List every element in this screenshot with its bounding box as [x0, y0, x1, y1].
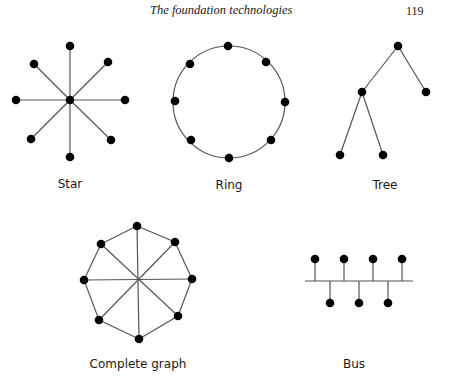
star-node [66, 42, 75, 51]
complete-graph-node [188, 275, 197, 284]
tree-node [336, 151, 345, 160]
network-topologies-figure [0, 0, 451, 386]
complete-graph-node [133, 222, 142, 231]
complete-graph-edge [99, 320, 139, 339]
complete-graph-edge [84, 244, 101, 280]
ring-node [281, 98, 290, 107]
bus-node [384, 299, 393, 308]
complete-graph-node [97, 240, 106, 249]
star-node [27, 135, 36, 144]
star-node [107, 136, 116, 145]
ring-node [224, 42, 233, 51]
complete-graph-edge [139, 316, 178, 339]
ring-label: Ring [216, 178, 243, 192]
star-edge [70, 100, 111, 140]
bus-label: Bus [343, 357, 365, 371]
complete-graph-node [135, 335, 144, 344]
complete-graph-edge [101, 226, 137, 244]
bus-node [398, 255, 407, 264]
bus-node [340, 255, 349, 264]
star-node [121, 96, 130, 105]
star-edge [34, 64, 70, 100]
bus-node [311, 255, 320, 264]
complete-graph-edge [178, 279, 192, 316]
bus-node [355, 299, 364, 308]
ring-node [267, 136, 276, 145]
complete-graph-node [80, 276, 89, 285]
tree-edge [340, 92, 362, 155]
bus-node [326, 299, 335, 308]
ring-node [262, 58, 271, 67]
star-label: Star [58, 177, 83, 191]
complete-graph-edge [137, 226, 139, 339]
tree-node [379, 151, 388, 160]
tree-node [358, 88, 367, 97]
star-node [104, 58, 113, 67]
tree-edge [398, 46, 426, 92]
ring-node [171, 97, 180, 106]
ring-node [187, 136, 196, 145]
complete-graph-edge [175, 242, 192, 279]
complete-graph-edge [84, 280, 99, 320]
tree-node [422, 88, 431, 97]
complete-graph-label: Complete graph [90, 357, 187, 371]
tree-edge [362, 92, 383, 155]
complete-graph-node [171, 238, 180, 247]
ring-node [225, 154, 234, 163]
star-edge [70, 62, 108, 100]
star-node [12, 96, 21, 105]
complete-graph-node [95, 316, 104, 325]
star-hub-node [66, 96, 75, 105]
star-edge [31, 100, 70, 139]
ring-node [186, 60, 195, 69]
tree-node [394, 42, 403, 51]
tree-label: Tree [372, 178, 397, 192]
complete-graph-edge [137, 226, 175, 242]
star-node [30, 60, 39, 69]
complete-graph-node [174, 312, 183, 321]
bus-node [369, 255, 378, 264]
star-node [66, 153, 75, 162]
tree-edge [362, 46, 398, 92]
